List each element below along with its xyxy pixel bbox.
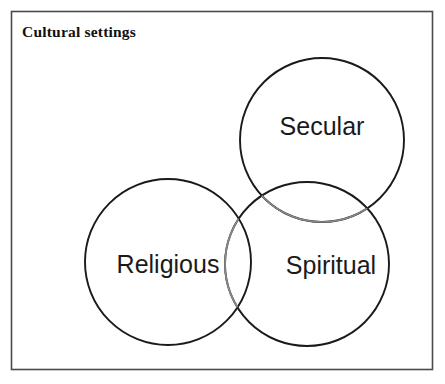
venn-diagram-panel: Cultural settings Secular Religious Spir… xyxy=(0,0,445,384)
label-religious: Religious xyxy=(117,250,220,278)
label-spiritual: Spiritual xyxy=(286,251,376,279)
page-title: Cultural settings xyxy=(22,23,136,40)
label-secular: Secular xyxy=(280,112,365,140)
venn-diagram-canvas: Cultural settings Secular Religious Spir… xyxy=(0,0,445,384)
